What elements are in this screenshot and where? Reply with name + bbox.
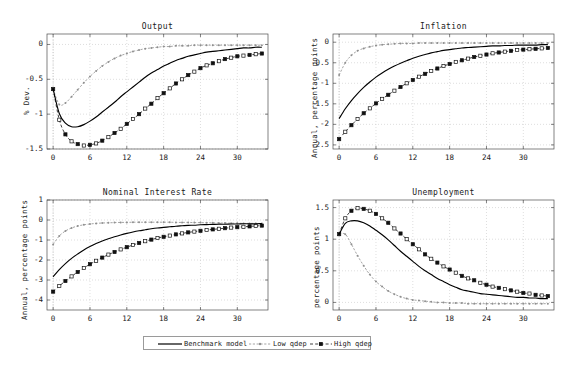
series-marker-high-qdep: [546, 294, 549, 297]
series-marker-high-qdep: [387, 221, 390, 224]
series-marker-low-qdep: [449, 302, 451, 304]
series-marker-low-qdep: [485, 303, 487, 305]
series-marker-high-qdep: [528, 292, 531, 295]
plot-area: [0, 0, 570, 368]
series-line-high-qdep: [339, 208, 548, 296]
series-marker-high-qdep: [362, 207, 365, 210]
series-marker-high-qdep: [491, 285, 494, 288]
series-marker-high-qdep: [466, 277, 469, 280]
series-marker-low-qdep: [535, 303, 537, 305]
series-marker-high-qdep: [399, 232, 402, 235]
x-tick-label: 18: [435, 314, 465, 323]
series-marker-high-qdep: [516, 290, 519, 293]
y-tick-label: 1.5: [299, 203, 329, 212]
series-marker-low-qdep: [492, 303, 494, 305]
series-marker-high-qdep: [356, 207, 359, 210]
series-marker-high-qdep: [473, 279, 476, 282]
series-marker-low-qdep: [424, 300, 426, 302]
legend: Benchmark modelLow qdepHigh qdep: [143, 336, 371, 350]
series-marker-low-qdep: [369, 274, 371, 276]
series-marker-high-qdep: [381, 217, 384, 220]
series-marker-high-qdep: [405, 238, 408, 241]
series-marker-low-qdep: [393, 293, 395, 295]
series-marker-high-qdep: [393, 227, 396, 230]
series-marker-low-qdep: [375, 281, 377, 283]
series-marker-low-qdep: [504, 303, 506, 305]
series-marker-high-qdep: [534, 293, 537, 296]
series-marker-low-qdep: [541, 303, 543, 305]
series-marker-high-qdep: [460, 274, 463, 277]
series-line-benchmark-model: [339, 221, 548, 299]
series-marker-low-qdep: [479, 303, 481, 305]
series-marker-high-qdep: [454, 271, 457, 274]
series-marker-low-qdep: [498, 303, 500, 305]
series-marker-high-qdep: [374, 212, 377, 215]
series-marker-low-qdep: [381, 286, 383, 288]
series-marker-low-qdep: [344, 233, 346, 235]
series-marker-low-qdep: [510, 303, 512, 305]
series-marker-high-qdep: [368, 209, 371, 212]
series-marker-low-qdep: [357, 255, 359, 257]
y-tick-label: 1: [299, 234, 329, 243]
series-marker-high-qdep: [522, 291, 525, 294]
x-tick-label: 6: [361, 314, 391, 323]
legend-label-high-qdep: High qdep: [334, 340, 372, 348]
x-tick-label: 12: [398, 314, 428, 323]
series-marker-high-qdep: [350, 209, 353, 212]
series-marker-high-qdep: [430, 257, 433, 260]
series-marker-low-qdep: [547, 303, 549, 305]
x-tick-label: 30: [508, 314, 538, 323]
legend-label-low-qdep: Low qdep: [273, 340, 307, 348]
series-marker-low-qdep: [443, 301, 445, 303]
series-marker-high-qdep: [497, 286, 500, 289]
series-marker-low-qdep: [516, 303, 518, 305]
x-tick-label: 24: [471, 314, 501, 323]
x-tick-label: 0: [324, 314, 354, 323]
series-marker-high-qdep: [442, 265, 445, 268]
chart-panel-unemployment: Unemploymentpercentage points06121824301…: [0, 0, 570, 368]
series-marker-low-qdep: [455, 302, 457, 304]
y-tick-label: 0: [299, 297, 329, 306]
series-marker-high-qdep: [479, 281, 482, 284]
series-marker-low-qdep: [418, 300, 420, 302]
series-marker-low-qdep: [522, 303, 524, 305]
series-marker-low-qdep: [436, 301, 438, 303]
series-marker-high-qdep: [436, 261, 439, 264]
series-marker-low-qdep: [473, 303, 475, 305]
legend-label-benchmark-model: Benchmark model: [184, 340, 247, 348]
series-marker-low-qdep: [406, 298, 408, 300]
series-marker-low-qdep: [412, 299, 414, 301]
series-marker-high-qdep: [411, 243, 414, 246]
y-tick-label: 0.5: [299, 266, 329, 275]
legend-marker-low-qdep: [259, 343, 261, 345]
series-marker-high-qdep: [448, 268, 451, 271]
series-marker-high-qdep: [485, 283, 488, 286]
series-marker-high-qdep: [344, 217, 347, 220]
series-marker-low-qdep: [363, 265, 365, 267]
series-marker-high-qdep: [417, 248, 420, 251]
series-marker-low-qdep: [400, 296, 402, 298]
series-marker-low-qdep: [430, 301, 432, 303]
series-marker-high-qdep: [503, 288, 506, 291]
series-marker-low-qdep: [461, 302, 463, 304]
series-marker-low-qdep: [350, 243, 352, 245]
legend-marker-high-qdep: [319, 342, 323, 346]
series-marker-high-qdep: [540, 294, 543, 297]
impulse-response-figure: Output% Dev.06121824300-0.5-1-1.5Inflati…: [0, 0, 570, 368]
series-marker-low-qdep: [387, 290, 389, 292]
series-marker-low-qdep: [467, 303, 469, 305]
series-marker-high-qdep: [509, 289, 512, 292]
series-marker-high-qdep: [423, 253, 426, 256]
series-marker-low-qdep: [528, 303, 530, 305]
